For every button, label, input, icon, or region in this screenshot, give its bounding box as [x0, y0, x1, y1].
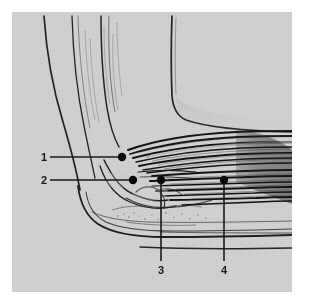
leader-dot-1: [118, 153, 126, 161]
leader-dot-3: [157, 176, 165, 184]
leader-dot-2: [129, 176, 137, 184]
leader-dot-4: [220, 176, 228, 184]
callout-number-4: 4: [221, 265, 227, 276]
callout-number-3: 3: [158, 265, 164, 276]
callout-number-2: 2: [41, 175, 47, 186]
callout-number-1: 1: [41, 152, 47, 163]
figure-root: 1234: [0, 0, 310, 304]
